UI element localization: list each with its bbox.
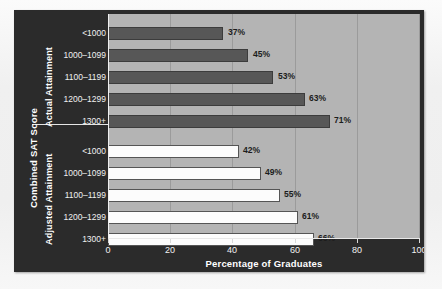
cat-label-actual-1200-1299: 1200–1299 (28, 93, 106, 106)
cat-label-adjusted-1000-1099: 1000–1099 (28, 167, 106, 180)
bar-value-label: 45% (253, 48, 270, 61)
bar-adjusted-1200-1299[interactable] (108, 211, 298, 224)
bar-adjusted-1000-1099[interactable] (108, 167, 261, 180)
y-axis-line (108, 14, 109, 238)
x-axis-title: Percentage of Graduates (108, 258, 420, 269)
bar-actual-1200-1299[interactable] (108, 93, 305, 106)
bar-actual-1300plus[interactable] (108, 115, 330, 128)
cat-label-actual-1300plus: 1300+ (28, 115, 106, 128)
bar-actual-lt1000[interactable] (108, 27, 223, 40)
x-axis-line (108, 238, 420, 239)
y-axis-title: Combined SAT Score (28, 108, 39, 208)
cat-label-adjusted-1100-1199: 1100–1199 (28, 189, 106, 202)
xtick-20 (170, 239, 171, 243)
xtick-0 (108, 239, 109, 243)
bar-value-label: 49% (265, 166, 282, 179)
bar-value-label: 61% (302, 210, 319, 223)
bar-value-label: 42% (243, 144, 260, 157)
xtick-label-40: 40 (217, 244, 247, 256)
bar-adjusted-lt1000[interactable] (108, 145, 239, 158)
bar-actual-1100-1199[interactable] (108, 71, 273, 84)
bar-value-label: 53% (278, 70, 295, 83)
xtick-label-60: 60 (280, 244, 310, 256)
xtick-label-20: 20 (155, 244, 185, 256)
cat-label-actual-1000-1099: 1000–1099 (28, 49, 106, 62)
bar-actual-1000-1099[interactable] (108, 49, 248, 62)
gridline-100 (419, 14, 420, 238)
xtick-100 (419, 239, 420, 243)
chart-panel: 37% 45% 53% 63% 71% 42% 49% 55% (14, 10, 424, 272)
xtick-label-0: 0 (93, 244, 123, 256)
xtick-label-80: 80 (342, 244, 372, 256)
bar-value-label: 71% (334, 114, 351, 127)
bar-value-label: 55% (284, 188, 301, 201)
xtick-60 (295, 239, 296, 243)
cat-label-actual-1100-1199: 1100–1199 (28, 71, 106, 84)
bar-adjusted-1100-1199[interactable] (108, 189, 280, 202)
xtick-40 (232, 239, 233, 243)
cat-label-actual-lt1000: <1000 (28, 27, 106, 40)
group-title-adjusted: Adjusted Attainment (44, 154, 54, 245)
cat-label-adjusted-1200-1299: 1200–1299 (28, 211, 106, 224)
bar-value-label: 63% (309, 92, 326, 105)
gridline-80 (357, 14, 358, 238)
xtick-80 (357, 239, 358, 243)
bar-value-label: 37% (228, 26, 245, 39)
group-title-actual: Actual Attainment (44, 47, 54, 127)
plot-area: 37% 45% 53% 63% 71% 42% 49% 55% (108, 14, 420, 238)
cat-label-adjusted-lt1000: <1000 (28, 145, 106, 158)
xtick-label-100: 100 (404, 244, 424, 256)
